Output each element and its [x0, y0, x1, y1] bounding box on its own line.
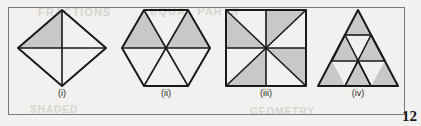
figure-iii: (iii): [222, 6, 310, 92]
figure-ii-part-upper-right: [166, 10, 210, 48]
figure-iv-part-row3-up-3: [371, 61, 398, 86]
figure-i-drawing: [14, 6, 110, 92]
figure-iv-part-row2-up-2: [358, 35, 385, 61]
figure-i-label: (i): [14, 88, 110, 98]
figure-iv-part-row2-up-1: [332, 35, 358, 61]
figure-iv-part-row3-up-2: [345, 61, 371, 86]
figure-ii-part-bottom: [144, 48, 188, 86]
figure-iv: (iv): [314, 6, 402, 92]
figure-iv-part-row1-up-1: [345, 10, 371, 35]
figure-iii-drawing: [222, 6, 310, 92]
figure-ii-drawing: [118, 6, 214, 92]
figure-ii-part-lower-right: [166, 48, 210, 86]
figure-iv-label: (iv): [314, 88, 402, 98]
figure-iv-part-row3-up-1: [318, 61, 345, 86]
figure-ii-part-lower-left: [122, 48, 166, 86]
figure-iii-label: (iii): [222, 88, 310, 98]
figure-i: (i): [14, 6, 110, 92]
page-number: 12: [402, 108, 417, 125]
figure-ii: (ii): [118, 6, 214, 92]
figure-ii-part-upper-left: [122, 10, 166, 48]
scanned-page: FRACTIONS EQUAL PARTS SHADED GEOMETRY (i…: [0, 0, 421, 126]
figure-ii-label: (ii): [118, 88, 214, 98]
figure-iv-drawing: [314, 6, 402, 92]
